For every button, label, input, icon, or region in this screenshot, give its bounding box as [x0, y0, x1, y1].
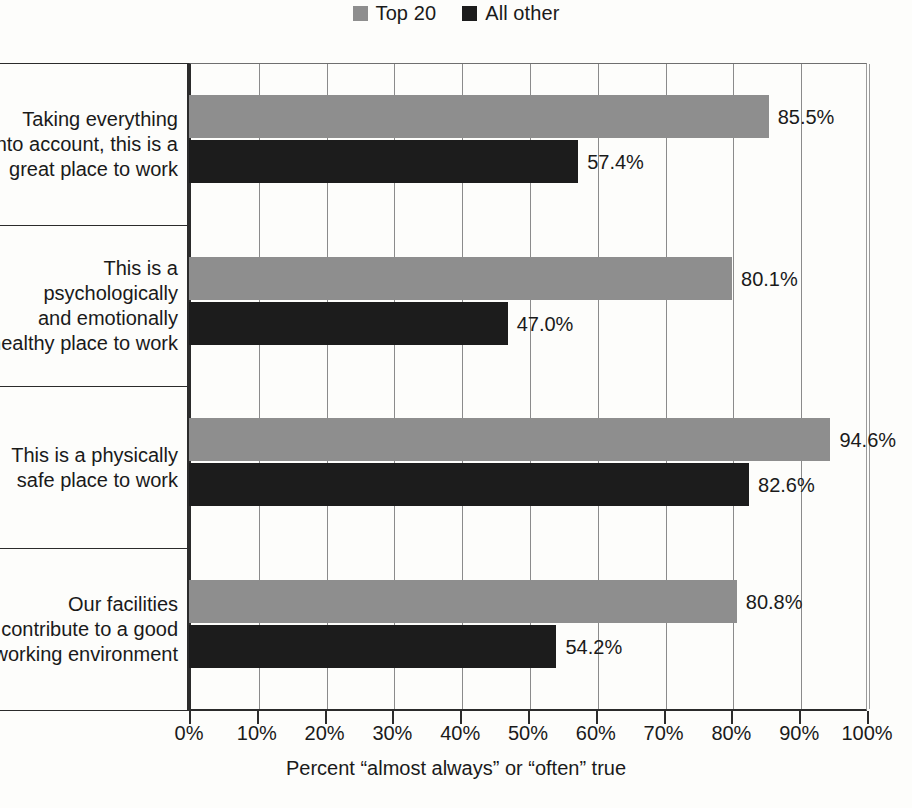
- bar-chart: Top 20 All other 85.5%57.4%80.1%47.0%94.…: [0, 0, 912, 808]
- bar-value-label: 54.2%: [565, 637, 622, 657]
- legend-item-top20: Top 20: [353, 2, 437, 25]
- x-tick-label-40%: 40%: [440, 722, 480, 745]
- bar-top20-4: [189, 580, 737, 623]
- bar-top20-3: [189, 418, 830, 461]
- legend-item-all-other: All other: [462, 2, 559, 25]
- category-label-box-3: This is a physically safe place to work: [0, 386, 189, 548]
- x-tick-label-60%: 60%: [576, 722, 616, 745]
- category-label-box-1: Taking everything into account, this is …: [0, 63, 189, 225]
- category-label-text: This is a physically safe place to work: [11, 443, 187, 493]
- legend-swatch-all-other: [462, 6, 477, 21]
- bar-all-other-2: [189, 302, 508, 345]
- category-label-box-4: Our facilities contribute to a good work…: [0, 548, 189, 711]
- x-tick-label-0%: 0%: [175, 722, 204, 745]
- bar-value-label: 80.1%: [741, 269, 798, 289]
- x-tick-label-10%: 10%: [237, 722, 277, 745]
- bar-value-label: 80.8%: [746, 592, 803, 612]
- category-label-text: Taking everything into account, this is …: [0, 107, 187, 182]
- x-tick-label-30%: 30%: [372, 722, 412, 745]
- chart-legend: Top 20 All other: [0, 2, 912, 25]
- x-tick-label-90%: 90%: [779, 722, 819, 745]
- bar-top20-2: [189, 257, 732, 300]
- category-label-box-2: This is a psychologically and emotionall…: [0, 225, 189, 386]
- bar-all-other-3: [189, 463, 749, 506]
- gridline-100%: [869, 64, 870, 709]
- x-tick-label-50%: 50%: [508, 722, 548, 745]
- x-tick-label-80%: 80%: [711, 722, 751, 745]
- legend-label-all-other: All other: [485, 2, 559, 25]
- x-tick-label-70%: 70%: [644, 722, 684, 745]
- bar-value-label: 82.6%: [758, 475, 815, 495]
- x-tick-label-100%: 100%: [841, 722, 892, 745]
- x-axis-title: Percent “almost always” or “often” true: [0, 757, 912, 780]
- category-label-text: This is a psychologically and emotionall…: [0, 256, 187, 356]
- bar-top20-1: [189, 95, 769, 138]
- category-axis: Taking everything into account, this is …: [0, 63, 189, 711]
- legend-label-top20: Top 20: [376, 2, 437, 25]
- x-tick-label-20%: 20%: [305, 722, 345, 745]
- bar-value-label: 94.6%: [839, 430, 896, 450]
- legend-swatch-top20: [353, 6, 368, 21]
- bar-value-label: 57.4%: [587, 152, 644, 172]
- bar-all-other-1: [189, 140, 578, 183]
- category-label-text: Our facilities contribute to a good work…: [0, 592, 187, 667]
- bar-value-label: 47.0%: [517, 314, 574, 334]
- bar-value-label: 85.5%: [778, 107, 835, 127]
- x-axis-tick-labels: 0%10%20%30%40%50%60%70%80%90%100%: [0, 722, 912, 750]
- bar-all-other-4: [189, 625, 556, 668]
- bars-layer: 85.5%57.4%80.1%47.0%94.6%82.6%80.8%54.2%: [189, 63, 867, 711]
